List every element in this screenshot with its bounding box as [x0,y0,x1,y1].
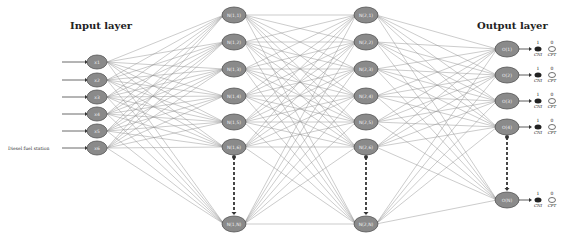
input-node: x4 [87,107,107,121]
node-label: O(N) [502,198,513,203]
svg-text:CNI: CNI [534,52,543,57]
svg-text:0: 0 [551,66,554,71]
input-layer-title: Input layer [70,20,132,31]
svg-text:0: 0 [551,191,554,196]
node-label: N(1,3) [227,67,241,72]
svg-text:1: 1 [537,92,540,97]
node-label: N(2,6) [359,145,373,150]
output-node: O(1) [495,41,519,57]
output-node: O(N) [495,192,519,208]
node-label: N(2,4) [359,94,373,99]
hidden2-node: N(2,4) [354,88,378,104]
hidden2-node: N(2,6) [354,139,378,155]
svg-text:CNI: CNI [534,78,543,83]
svg-text:0: 0 [551,92,554,97]
svg-text:CNI: CNI [534,130,543,135]
svg-text:CPT: CPT [548,104,557,109]
output-node: O(2) [495,67,519,83]
node-label: N(2,5) [359,120,373,125]
connections [107,15,497,224]
node-label: N(2,3) [359,67,373,72]
empty-class-icon [549,47,556,52]
output-class-icons: 10CNICPT [534,92,557,109]
svg-text:CPT: CPT [548,130,557,135]
node-label: N(2,N) [359,222,374,227]
node-label: N(1,N) [227,222,242,227]
hidden1-node: N(1,2) [222,34,246,50]
node-label: x6 [94,146,100,151]
node-label: N(1,5) [227,120,241,125]
svg-text:0: 0 [551,40,554,45]
output-class-icons: 10CNICPT [534,40,557,57]
svg-text:1: 1 [537,66,540,71]
svg-text:1: 1 [537,191,540,196]
node-label: N(1,6) [227,145,241,150]
empty-class-icon [549,198,556,203]
output-class-icons: 10CNICPT [534,191,557,208]
filled-class-icon [535,125,542,130]
hidden1-node: N(1,N) [222,216,246,232]
svg-text:CPT: CPT [548,78,557,83]
node-label: N(1,2) [227,40,241,45]
node-label: x1 [94,60,100,65]
empty-class-icon [549,99,556,104]
node-label: x3 [94,95,100,100]
output-node: O(4) [495,119,519,135]
input-node: x2 [87,73,107,87]
input-node: x5 [87,124,107,138]
hidden2-node: N(2,3) [354,61,378,77]
svg-text:1: 1 [537,118,540,123]
filled-class-icon [535,198,542,203]
hidden1-node: N(1,4) [222,88,246,104]
svg-text:CNI: CNI [534,104,543,109]
filled-class-icon [535,47,542,52]
output-layer-title: Output layer [477,20,548,31]
node-label: x5 [94,129,100,134]
svg-text:CPT: CPT [548,52,557,57]
hidden1-node: N(1,3) [222,61,246,77]
node-label: x4 [94,112,100,117]
output-class-icons: 10CNICPT [534,118,557,135]
input-node: x6 [87,141,107,155]
node-label: O(1) [502,47,512,52]
hidden2-node: N(2,2) [354,34,378,50]
filled-class-icon [535,99,542,104]
hidden1-node: N(1,1) [222,7,246,23]
network-canvas: x1x2x3x4x5x6N(1,1)N(1,2)N(1,3)N(1,4)N(1,… [0,0,566,239]
svg-text:CNI: CNI [534,203,543,208]
input-node: x3 [87,90,107,104]
node-label: x2 [94,78,100,83]
hidden1-node: N(1,6) [222,139,246,155]
hidden2-node: N(2,1) [354,7,378,23]
node-label: O(2) [502,73,512,78]
hidden2-node: N(2,N) [354,216,378,232]
svg-text:1: 1 [537,40,540,45]
hidden1-node: N(1,5) [222,114,246,130]
input-node: x1 [87,55,107,69]
node-label: N(2,2) [359,40,373,45]
node-label: N(1,1) [227,13,241,18]
node-label: N(2,1) [359,13,373,18]
filled-class-icon [535,73,542,78]
node-label: O(3) [502,99,512,104]
hidden2-node: N(2,5) [354,114,378,130]
neural-network-diagram: x1x2x3x4x5x6N(1,1)N(1,2)N(1,3)N(1,4)N(1,… [0,0,566,239]
node-label: N(1,4) [227,94,241,99]
svg-text:CPT: CPT [548,203,557,208]
empty-class-icon [549,73,556,78]
svg-text:0: 0 [551,118,554,123]
diesel-fuel-station-label: Diesel fuel station [8,146,49,151]
node-label: O(4) [502,125,512,130]
empty-class-icon [549,125,556,130]
output-class-icons: 10CNICPT [534,66,557,83]
output-node: O(3) [495,93,519,109]
